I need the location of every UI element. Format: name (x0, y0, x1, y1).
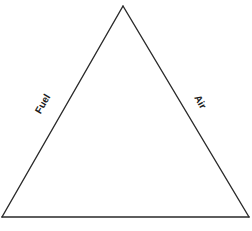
triangle-left-side (2, 6, 123, 217)
triangle-right-side (123, 6, 249, 217)
